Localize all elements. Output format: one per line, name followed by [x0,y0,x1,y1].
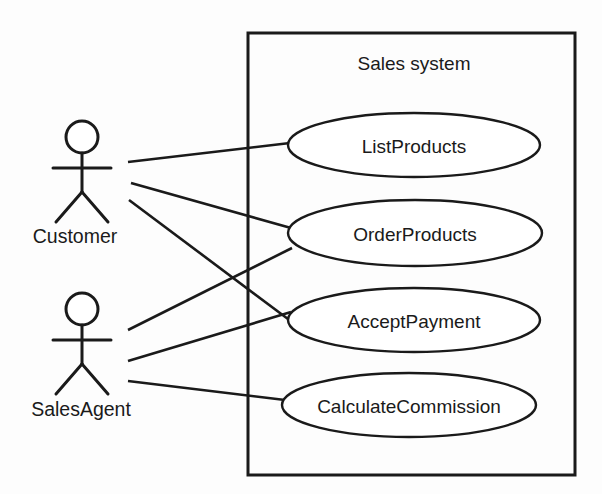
use-case-orderproducts[interactable]: OrderProducts [288,200,542,266]
association-lines [128,143,292,400]
use-case-label-orderproducts: OrderProducts [353,224,477,245]
system-boundary-label: Sales system [358,53,471,74]
use-case-calculatecommission[interactable]: CalculateCommission [282,373,536,437]
association-customer-orderproducts[interactable] [131,183,291,228]
actor-leg-left-customer [56,192,82,222]
diagram-canvas: Sales system ListProductsOrderProductsAc… [0,0,602,494]
actor-label-customer: Customer [33,225,118,247]
actor-salesagent[interactable]: SalesAgent [31,293,131,420]
use-case-label-listproducts: ListProducts [362,136,467,157]
association-salesagent-calculatecommission[interactable] [128,381,285,400]
use-case-listproducts[interactable]: ListProducts [288,113,540,177]
actor-leg-right-customer [82,192,108,222]
use-case-acceptpayment[interactable]: AcceptPayment [288,288,540,352]
use-cases: ListProductsOrderProductsAcceptPaymentCa… [282,113,542,437]
actor-head-salesagent [66,293,98,325]
use-case-label-calculatecommission: CalculateCommission [317,396,501,417]
use-case-label-acceptpayment: AcceptPayment [347,311,481,332]
use-case-diagram: Sales system ListProductsOrderProductsAc… [0,0,602,494]
association-customer-listproducts[interactable] [128,143,290,162]
actor-leg-left-salesagent [56,364,82,394]
actor-head-customer [66,121,98,153]
actor-leg-right-salesagent [82,364,108,394]
actor-label-salesagent: SalesAgent [31,398,131,420]
actors: CustomerSalesAgent [31,121,131,420]
actor-customer[interactable]: Customer [33,121,118,247]
association-salesagent-acceptpayment[interactable] [128,312,291,361]
